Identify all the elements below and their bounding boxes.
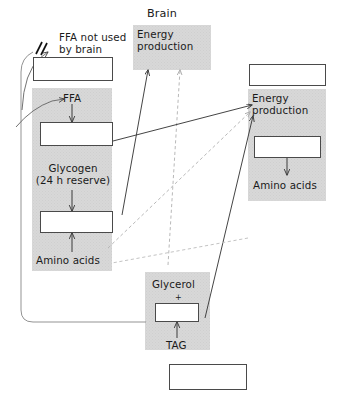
glycerol-to-brain-dashed-arrow bbox=[168, 70, 180, 265]
right-lower-dashed-connector bbox=[112, 238, 248, 263]
brain-heading: Brain bbox=[147, 8, 177, 20]
metabolism-diagram: Brain Energy production FFA not used by … bbox=[0, 0, 340, 404]
brain-energy-production-label: Energy production bbox=[137, 29, 207, 52]
right-amino-acids-label: Amino acids bbox=[253, 180, 317, 192]
glycerol-label: Glycerol bbox=[152, 279, 195, 291]
ffa-label: FFA bbox=[63, 93, 81, 105]
left-amino-acids-label: Amino acids bbox=[36, 255, 100, 267]
bottom-box[interactable] bbox=[169, 364, 247, 390]
glycogen-label: Glycogen (24 h reserve) bbox=[33, 163, 113, 186]
left-mid-box[interactable] bbox=[40, 122, 113, 146]
amino-acids-to-right-energy-dashed-arrow bbox=[108, 112, 250, 248]
right-energy-production-label: Energy production bbox=[252, 93, 324, 116]
glycerol-plus-symbol: + bbox=[175, 294, 182, 302]
left-top-box[interactable] bbox=[33, 57, 113, 81]
right-inner-box[interactable] bbox=[254, 136, 321, 158]
glycerol-box[interactable] bbox=[155, 303, 199, 322]
left-midbox-to-right-energy-arrow bbox=[113, 105, 252, 141]
ffa-blocked-note: FFA not used by brain bbox=[59, 32, 126, 55]
glycerol-to-right-energy-arrow bbox=[205, 116, 253, 318]
blocked-pathway-icon bbox=[36, 42, 47, 55]
glycogen-to-brain-arrow bbox=[122, 70, 148, 215]
tag-label: TAG bbox=[166, 340, 187, 352]
left-lower-box[interactable] bbox=[40, 211, 113, 233]
right-top-box[interactable] bbox=[249, 64, 326, 86]
